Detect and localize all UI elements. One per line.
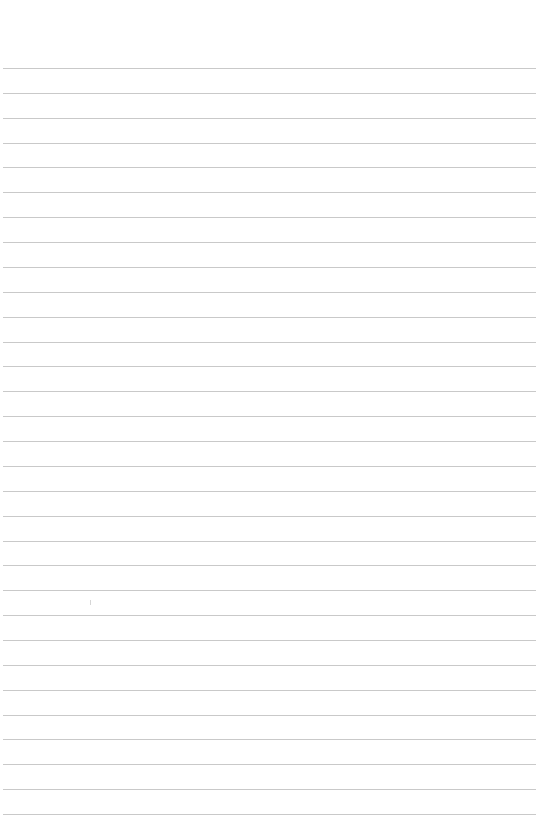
ruled-line — [3, 640, 536, 641]
ruled-line — [3, 143, 536, 144]
ruled-line — [3, 366, 536, 367]
ruled-line — [3, 167, 536, 168]
ruled-line — [3, 441, 536, 442]
ruled-line — [3, 242, 536, 243]
ruled-line — [3, 292, 536, 293]
ruled-line — [3, 590, 536, 591]
ruled-line — [3, 739, 536, 740]
ruled-line — [3, 615, 536, 616]
ruled-line — [3, 267, 536, 268]
ruled-line — [3, 391, 536, 392]
ruled-line — [3, 789, 536, 790]
ruled-line — [3, 541, 536, 542]
ruled-line — [3, 192, 536, 193]
ruled-line — [3, 665, 536, 666]
ruled-line — [3, 317, 536, 318]
ruled-line — [3, 342, 536, 343]
ruled-line — [3, 68, 536, 69]
ruled-line — [3, 690, 536, 691]
ruled-line — [3, 416, 536, 417]
ruled-line — [3, 814, 536, 815]
ruled-line — [3, 516, 536, 517]
ruled-line — [3, 466, 536, 467]
ruled-line — [3, 93, 536, 94]
lined-paper-page — [0, 0, 536, 829]
ruled-line — [3, 217, 536, 218]
ruled-line — [3, 764, 536, 765]
stray-mark — [90, 600, 91, 605]
ruled-line — [3, 118, 536, 119]
ruled-line — [3, 491, 536, 492]
ruled-line — [3, 565, 536, 566]
ruled-line — [3, 715, 536, 716]
